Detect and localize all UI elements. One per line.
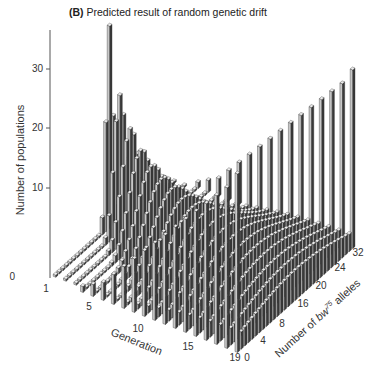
bar <box>91 282 96 297</box>
bar <box>309 105 314 233</box>
z-tick-label-20: 20 <box>32 122 44 133</box>
bars-group <box>53 23 355 352</box>
z-axis-title: Number of populations <box>14 104 26 215</box>
bar <box>206 178 211 193</box>
bar <box>142 248 147 316</box>
bar <box>194 209 199 337</box>
bar <box>330 89 335 241</box>
bar <box>132 256 137 313</box>
z-tick-label-10: 10 <box>32 182 44 193</box>
bar <box>204 201 209 341</box>
bar <box>288 120 293 224</box>
bar <box>225 185 230 349</box>
bar <box>278 128 283 220</box>
bar <box>163 232 168 324</box>
bar <box>53 272 58 277</box>
y-tick-label-0: 0 <box>244 352 250 363</box>
bar <box>196 180 201 189</box>
y-tick-label-16: 16 <box>297 298 309 309</box>
bar <box>258 144 263 212</box>
bar <box>111 272 116 305</box>
bar <box>319 97 324 237</box>
bar <box>235 171 240 352</box>
bar <box>81 284 86 293</box>
x-tick-label-10: 10 <box>132 323 144 334</box>
bar <box>153 240 158 320</box>
x-tick-label-19: 19 <box>229 352 241 363</box>
bar <box>122 264 127 309</box>
x-tick-label-1: 1 <box>43 283 49 294</box>
bar <box>268 136 273 216</box>
bar <box>184 216 189 332</box>
bar <box>340 81 345 245</box>
y-tick-label-32: 32 <box>352 247 364 258</box>
bar <box>173 224 178 328</box>
bar <box>247 152 252 209</box>
y-tick-label-20: 20 <box>315 280 327 291</box>
y-tick-label-4: 4 <box>260 335 266 346</box>
bar <box>103 235 108 245</box>
bar <box>64 276 69 281</box>
y-axis-title-suffix: alleles <box>329 276 363 308</box>
bar <box>101 280 106 301</box>
x-tick-label-5: 5 <box>86 301 92 312</box>
bar <box>299 112 304 228</box>
z-tick-label-0: 0 <box>9 271 15 282</box>
x-tick-label-15: 15 <box>182 341 194 352</box>
y-tick-label-8: 8 <box>279 318 285 329</box>
bar3d-chart: 30 20 10 0 Number of populations 1 5 10 … <box>0 0 380 370</box>
bar <box>74 280 79 285</box>
bar <box>214 193 219 345</box>
bar <box>350 67 355 248</box>
bar <box>100 215 105 235</box>
y-tick-label-24: 24 <box>334 262 346 273</box>
z-tick-label-30: 30 <box>32 63 44 74</box>
